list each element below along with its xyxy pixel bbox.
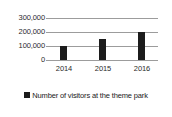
y-axis-tick-label: 200,000	[0, 28, 45, 36]
x-axis-tick-label: 2015	[86, 64, 120, 73]
bar-2015	[99, 39, 106, 60]
bar-2016	[138, 32, 145, 60]
y-axis-tick-label: 100,000	[0, 42, 45, 50]
y-axis-tick-label: 0	[0, 56, 45, 64]
plot-area: 300,000 200,000 100,000 0 2014 2015 2016	[0, 0, 172, 80]
x-axis-tick-label: 2014	[47, 64, 81, 73]
legend-square-icon	[24, 92, 30, 98]
bar-chart: 300,000 200,000 100,000 0 2014 2015 2016	[0, 0, 172, 117]
bar-2014	[60, 46, 67, 60]
x-axis-tick-label: 2016	[125, 64, 159, 73]
chart-legend: Number of visitors at the theme park	[0, 86, 172, 104]
y-axis-tick-label: 300,000	[0, 14, 45, 22]
y-axis-tick-labels: 300,000 200,000 100,000 0	[0, 0, 45, 80]
legend-item: Number of visitors at the theme park	[24, 91, 147, 100]
legend-item-label: Number of visitors at the theme park	[32, 91, 147, 100]
x-axis-tick-labels: 2014 2015 2016	[46, 64, 158, 78]
